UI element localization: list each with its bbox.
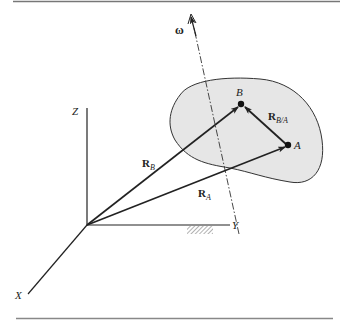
vector-r-b (87, 107, 238, 225)
y-axis-label: Y (232, 220, 238, 231)
ground-hatch (187, 226, 213, 234)
vector-r-ba-label: RB/A (268, 111, 288, 125)
point-b (238, 101, 244, 107)
vector-r-a (87, 147, 285, 225)
z-axis-label: Z (72, 106, 78, 117)
vector-r-b-label: RB (142, 158, 155, 172)
x-axis-label: X (15, 290, 22, 301)
omega-label: ω (175, 24, 184, 36)
point-a-label: A (294, 140, 301, 151)
point-b-label: B (236, 87, 243, 98)
vector-r-a-label: RA (198, 188, 211, 202)
rigid-body-shape (170, 78, 323, 183)
x-axis (28, 225, 87, 294)
point-a (285, 142, 291, 148)
omega-arrow (191, 17, 196, 36)
rigid-body-diagram (0, 0, 343, 324)
